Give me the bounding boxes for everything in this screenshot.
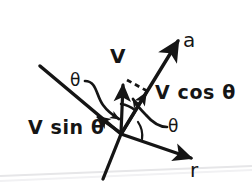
- vector-v-label: V: [110, 46, 125, 66]
- component-vsin-label: V sin θ: [28, 118, 105, 137]
- axis-r-label: r: [190, 160, 198, 180]
- leader-line-theta-upper: [85, 81, 119, 119]
- angle-theta-lower-label: θ: [168, 118, 178, 135]
- component-vcos-label: V cos θ: [155, 83, 236, 102]
- angle-arc-lower: [138, 122, 142, 139]
- projection-dashed-line: [127, 80, 149, 92]
- diagram-canvas: a r V V cos θ V sin θ θ θ: [0, 0, 252, 191]
- angle-theta-upper-label: θ: [70, 72, 80, 89]
- axis-r-line: [121, 134, 191, 158]
- page-edge-artifact: [0, 166, 252, 181]
- axis-a-label: a: [183, 30, 195, 50]
- vector-v-arrow: [121, 85, 123, 133]
